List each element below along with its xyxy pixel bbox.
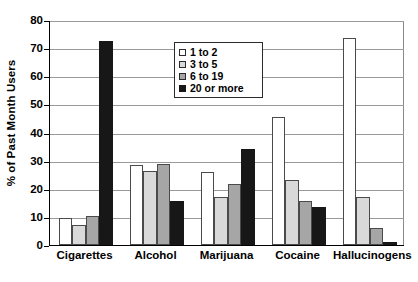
legend-item-label: 6 to 19 <box>190 71 223 82</box>
y-axis-tick-label: 60 <box>21 72 43 84</box>
legend-item: 1 to 2 <box>179 46 258 58</box>
bar <box>241 149 255 245</box>
legend-swatch-icon <box>179 49 186 56</box>
bar-chart: % of Past Month Users 01020304050607080 … <box>0 0 418 282</box>
bar <box>59 218 73 245</box>
bar-group <box>343 21 397 245</box>
bar <box>228 184 242 245</box>
y-axis-tick-mark <box>44 190 49 191</box>
legend-item: 20 or more <box>179 82 258 94</box>
y-axis-title-text: % of Past Month Users <box>5 60 17 187</box>
bar <box>157 164 171 245</box>
legend-item: 3 to 5 <box>179 58 258 70</box>
x-axis-category-label: Hallucinogens <box>333 250 404 262</box>
bar <box>343 38 357 245</box>
y-axis-tick-label: 0 <box>21 240 43 252</box>
bar <box>383 242 397 245</box>
legend-item-label: 1 to 2 <box>190 47 217 58</box>
bar <box>299 201 313 245</box>
bar <box>143 171 157 245</box>
y-axis-tick-label: 50 <box>21 100 43 112</box>
legend-swatch-icon <box>179 73 186 80</box>
y-axis-tick-label: 30 <box>21 156 43 168</box>
bar <box>170 201 184 245</box>
y-axis-tick-mark <box>44 77 49 78</box>
y-axis-tick-label: 70 <box>21 43 43 55</box>
bar <box>312 207 326 245</box>
bar <box>72 225 86 245</box>
bar <box>285 180 299 245</box>
bar-group <box>272 21 326 245</box>
legend-swatch-icon <box>179 85 186 92</box>
y-axis-tick-mark <box>44 21 49 22</box>
bar-group <box>59 21 113 245</box>
bar <box>201 172 215 245</box>
y-axis-tick-label: 80 <box>21 15 43 27</box>
y-axis-tick-mark <box>44 218 49 219</box>
y-axis-tick-mark <box>44 162 49 163</box>
x-axis-category-label: Marijuana <box>191 250 262 262</box>
bar <box>99 41 113 245</box>
y-axis-tick-mark <box>44 49 49 50</box>
y-axis-tick-label: 40 <box>21 128 43 140</box>
legend-item-label: 20 or more <box>190 83 244 94</box>
x-axis-category-label: Cocaine <box>262 250 333 262</box>
y-axis-tick-mark <box>44 246 49 247</box>
y-axis-tick-mark <box>44 134 49 135</box>
legend-swatch-icon <box>179 61 186 68</box>
legend-item-label: 3 to 5 <box>190 59 217 70</box>
bar <box>214 197 228 245</box>
y-axis-tick-mark <box>44 105 49 106</box>
x-axis-category-label: Cigarettes <box>49 250 120 262</box>
x-axis-category-label: Alcohol <box>120 250 191 262</box>
y-axis-tick-labels: 01020304050607080 <box>17 0 43 282</box>
legend-item: 6 to 19 <box>179 70 258 82</box>
chart-legend: 1 to 23 to 56 to 1920 or more <box>174 42 263 98</box>
bar <box>130 165 144 245</box>
x-axis-category-labels: CigarettesAlcoholMarijuanaCocaineHalluci… <box>49 250 404 272</box>
y-axis-tick-label: 20 <box>21 184 43 196</box>
bar <box>356 197 370 245</box>
bar <box>370 228 384 245</box>
bar <box>86 216 100 245</box>
bar <box>272 117 286 245</box>
y-axis-tick-label: 10 <box>21 212 43 224</box>
